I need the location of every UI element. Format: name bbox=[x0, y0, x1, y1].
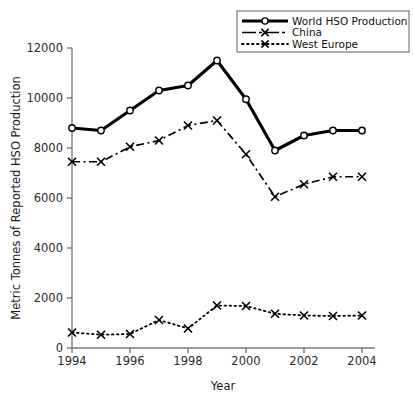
data-point-world-hso-production bbox=[359, 127, 365, 133]
x-tick-label: 1994 bbox=[57, 354, 86, 368]
data-point-world-hso-production bbox=[127, 107, 133, 113]
y-tick-label: 0 bbox=[56, 341, 63, 355]
data-point-world-hso-production bbox=[185, 82, 191, 88]
legend-label-west-europe: West Europe bbox=[292, 38, 358, 50]
y-tick-label: 8000 bbox=[34, 141, 63, 155]
line-chart-figure: 020004000600080001000012000 199419961998… bbox=[0, 0, 413, 399]
x-tick-label: 2002 bbox=[289, 354, 318, 368]
chart-container: 020004000600080001000012000 199419961998… bbox=[0, 0, 413, 399]
data-point-world-hso-production bbox=[69, 125, 75, 131]
data-point-world-hso-production bbox=[214, 57, 220, 63]
data-point-world-hso-production bbox=[156, 87, 162, 93]
y-tick-label: 4000 bbox=[34, 241, 63, 255]
data-point-world-hso-production bbox=[330, 127, 336, 133]
legend-label-china: China bbox=[292, 26, 322, 38]
y-tick-label: 2000 bbox=[34, 291, 63, 305]
x-tick-label: 2004 bbox=[347, 354, 376, 368]
data-point-world-hso-production bbox=[98, 127, 104, 133]
data-point-world-hso-production bbox=[243, 96, 249, 102]
y-tick-label: 6000 bbox=[34, 191, 63, 205]
chart-legend: World HSO Production China bbox=[237, 11, 409, 52]
x-tick-label: 2000 bbox=[231, 354, 260, 368]
y-tick-label: 10000 bbox=[26, 91, 63, 105]
data-point-world-hso-production bbox=[272, 147, 278, 153]
x-tick-label: 1996 bbox=[115, 354, 144, 368]
x-axis-title: Year bbox=[210, 379, 236, 393]
y-tick-label: 12000 bbox=[26, 41, 63, 55]
x-tick-label: 1998 bbox=[173, 354, 202, 368]
legend-label-world-hso-production: World HSO Production bbox=[292, 15, 407, 27]
data-point-world-hso-production bbox=[301, 132, 307, 138]
y-axis-title: Metric Tonnes of Reported HSO Production bbox=[9, 76, 23, 320]
